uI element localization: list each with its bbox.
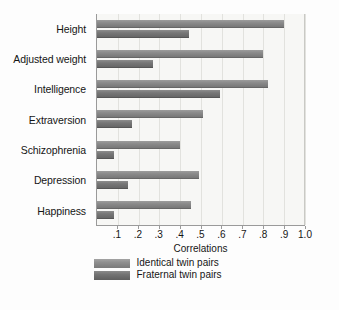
- bar-fraternal: [97, 151, 114, 159]
- bar-group: [97, 104, 305, 134]
- bar-group: [97, 44, 305, 74]
- x-tick-label: .7: [238, 230, 246, 240]
- category-label: Adjusted weight: [0, 44, 92, 74]
- bar-identical: [97, 80, 268, 88]
- x-axis: .1.2.3.4.5.6.7.8.91.0: [96, 226, 305, 242]
- bar-identical: [97, 110, 203, 118]
- x-tick-label: .3: [155, 230, 163, 240]
- x-tick-label: .6: [217, 230, 225, 240]
- twin-correlations-bar-chart: HeightAdjusted weightIntelligenceExtrave…: [0, 0, 339, 310]
- bar-identical: [97, 20, 284, 28]
- bar-fraternal: [97, 90, 220, 98]
- bar-group: [97, 14, 305, 44]
- category-label: Height: [0, 14, 92, 44]
- x-tick-label: .2: [134, 230, 142, 240]
- gridline: [305, 14, 306, 225]
- x-tick-label: .1: [113, 230, 121, 240]
- x-axis-title: Correlations: [96, 243, 305, 254]
- chart-legend: Identical twin pairsFraternal twin pairs: [0, 258, 339, 280]
- plot-area: [96, 14, 305, 226]
- bar-group: [97, 74, 305, 104]
- category-label: Depression: [0, 165, 92, 195]
- bar-fraternal: [97, 30, 189, 38]
- bar-identical: [97, 50, 263, 58]
- bar-fraternal: [97, 211, 114, 219]
- category-axis: HeightAdjusted weightIntelligenceExtrave…: [0, 14, 92, 226]
- bar-identical: [97, 141, 180, 149]
- x-tick-label: 1.0: [298, 230, 312, 240]
- legend-item: Fraternal twin pairs: [94, 270, 246, 280]
- legend-label: Identical twin pairs: [137, 258, 219, 268]
- bar-group: [97, 195, 305, 225]
- bar-series-container: [97, 14, 305, 225]
- bar-group: [97, 135, 305, 165]
- bar-fraternal: [97, 120, 132, 128]
- legend-swatch-fraternal: [94, 271, 130, 280]
- x-tick-label: .4: [175, 230, 183, 240]
- bar-group: [97, 165, 305, 195]
- bar-fraternal: [97, 60, 153, 68]
- x-tick-label: .9: [280, 230, 288, 240]
- bar-identical: [97, 171, 199, 179]
- bar-fraternal: [97, 181, 128, 189]
- category-label: Extraversion: [0, 105, 92, 135]
- x-tick-label: .5: [196, 230, 204, 240]
- category-label: Happiness: [0, 196, 92, 226]
- x-tick-label: .8: [259, 230, 267, 240]
- category-label: Intelligence: [0, 75, 92, 105]
- legend-swatch-identical: [94, 259, 130, 268]
- legend-label: Fraternal twin pairs: [137, 270, 222, 280]
- category-label: Schizophrenia: [0, 135, 92, 165]
- legend-item: Identical twin pairs: [94, 258, 246, 268]
- bar-identical: [97, 201, 191, 209]
